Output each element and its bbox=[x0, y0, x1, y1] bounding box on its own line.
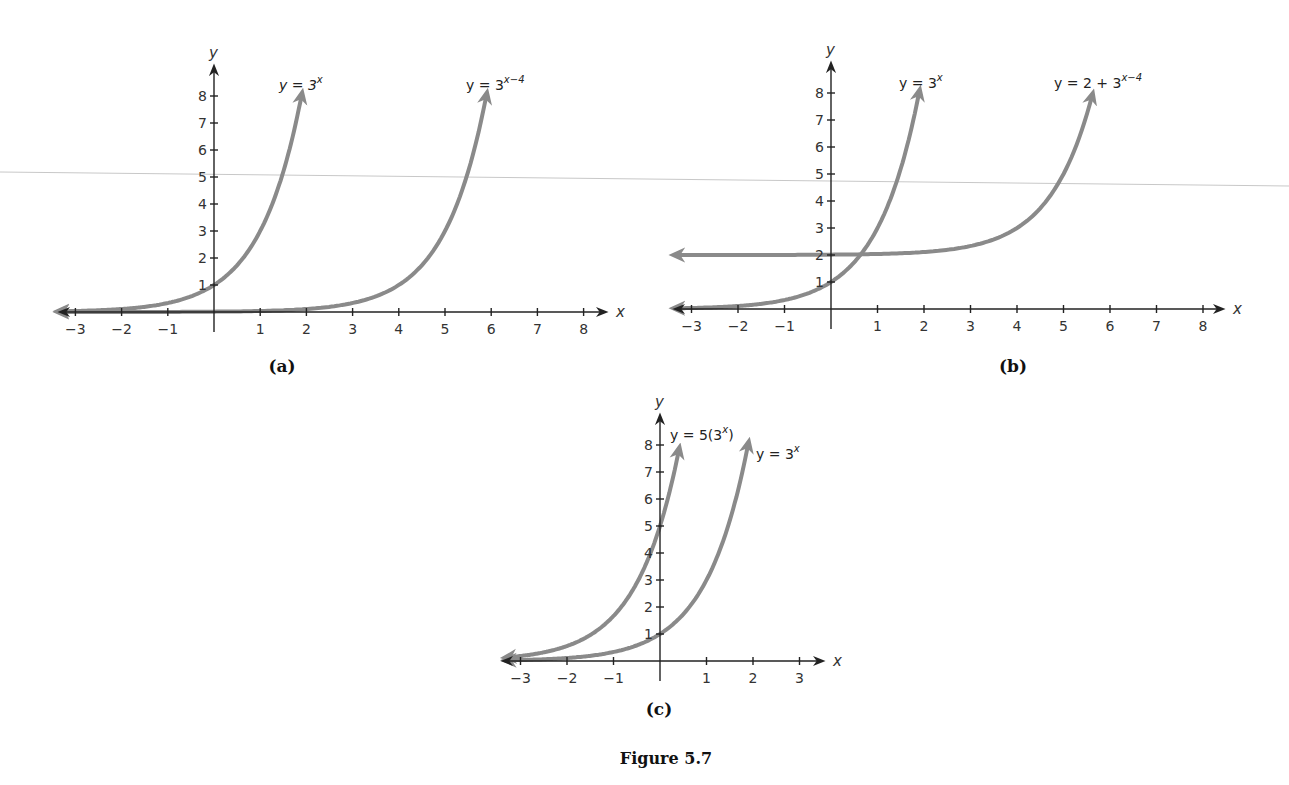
y-tick-label: 5 bbox=[815, 166, 824, 182]
panel-a-eq2-label: y = 3x−4 bbox=[466, 74, 525, 93]
panel-c-label: (c) bbox=[646, 699, 672, 719]
x-tick-label: 5 bbox=[441, 321, 450, 337]
y-tick-label: 7 bbox=[815, 112, 824, 128]
y-tick-label: 6 bbox=[198, 142, 207, 158]
y-tick-label: 8 bbox=[644, 437, 653, 453]
x-tick-label: 8 bbox=[579, 321, 588, 337]
y-tick-label: 2 bbox=[644, 599, 653, 615]
y-tick-label: 8 bbox=[198, 88, 207, 104]
figure-5-7: −3−2−11234567812345678xy −3−2−1123456781… bbox=[0, 0, 1289, 785]
x-tick-label: 3 bbox=[795, 670, 804, 686]
curve-3-x bbox=[59, 94, 302, 311]
x-tick-label: 7 bbox=[533, 321, 542, 337]
y-tick-label: 7 bbox=[644, 464, 653, 480]
y-tick-label: 2 bbox=[198, 250, 207, 266]
y-axis-label: y bbox=[825, 41, 836, 59]
y-tick-label: 6 bbox=[644, 491, 653, 507]
panel-b-label: (b) bbox=[999, 356, 1027, 376]
x-tick-label: 1 bbox=[873, 318, 882, 334]
x-tick-label: 2 bbox=[302, 321, 311, 337]
x-tick-label: 7 bbox=[1152, 318, 1161, 334]
y-tick-label: 4 bbox=[644, 545, 653, 561]
y-tick-label: 2 bbox=[815, 247, 824, 263]
panel-b-chart: −3−2−11234567812345678xy bbox=[675, 41, 1242, 334]
x-tick-label: 5 bbox=[1059, 318, 1068, 334]
x-tick-label: 1 bbox=[256, 321, 265, 337]
y-tick-label: 4 bbox=[815, 193, 824, 209]
x-tick-label: 1 bbox=[702, 670, 711, 686]
y-tick-label: 1 bbox=[198, 277, 207, 293]
y-axis-label: y bbox=[208, 44, 219, 62]
panel-c-eq2-label: y = 3x bbox=[756, 443, 800, 462]
panel-a-chart: −3−2−11234567812345678xy bbox=[59, 44, 625, 337]
x-tick-label: −2 bbox=[111, 321, 132, 337]
x-tick-label: 8 bbox=[1199, 318, 1208, 334]
x-tick-label: −3 bbox=[510, 670, 531, 686]
y-tick-label: 5 bbox=[644, 518, 653, 534]
y-tick-label: 5 bbox=[198, 169, 207, 185]
panel-c-eq1-label: y = 5(3x) bbox=[670, 424, 734, 443]
y-tick-label: 1 bbox=[815, 274, 824, 290]
y-tick-label: 3 bbox=[815, 220, 824, 236]
scan-line-artifact bbox=[0, 172, 1289, 186]
curve-3-x bbox=[507, 443, 749, 660]
x-tick-label: 3 bbox=[348, 321, 357, 337]
x-tick-label: −1 bbox=[603, 670, 624, 686]
x-tick-label: 6 bbox=[487, 321, 496, 337]
panel-a-eq1-label: y = 3x bbox=[278, 74, 323, 93]
y-tick-label: 8 bbox=[815, 85, 824, 101]
y-tick-label: 3 bbox=[198, 223, 207, 239]
x-tick-label: −1 bbox=[157, 321, 178, 337]
y-tick-label: 7 bbox=[198, 115, 207, 131]
curve-5-3-x bbox=[507, 449, 679, 657]
y-tick-label: 4 bbox=[198, 196, 207, 212]
x-tick-label: −3 bbox=[65, 321, 86, 337]
x-tick-label: 2 bbox=[920, 318, 929, 334]
panel-b-eq1-label: y = 3x bbox=[899, 72, 943, 91]
x-tick-label: 3 bbox=[966, 318, 975, 334]
x-tick-label: −1 bbox=[774, 318, 795, 334]
x-tick-label: −3 bbox=[681, 318, 702, 334]
x-tick-label: 4 bbox=[394, 321, 403, 337]
x-tick-label: 4 bbox=[1013, 318, 1022, 334]
curve-3-x bbox=[675, 91, 919, 308]
x-tick-label: 2 bbox=[749, 670, 758, 686]
panel-a-label: (a) bbox=[268, 356, 295, 376]
curve-2-3-x-4- bbox=[675, 95, 1092, 255]
x-tick-label: 6 bbox=[1106, 318, 1115, 334]
figure-caption: Figure 5.7 bbox=[620, 749, 712, 768]
y-tick-label: 6 bbox=[815, 139, 824, 155]
y-axis-label: y bbox=[654, 393, 665, 411]
x-tick-label: −2 bbox=[728, 318, 749, 334]
x-axis-label: x bbox=[832, 652, 842, 670]
panel-b-eq2-label: y = 2 + 3x−4 bbox=[1054, 72, 1142, 91]
x-axis-label: x bbox=[1232, 300, 1242, 318]
y-tick-label: 3 bbox=[644, 572, 653, 588]
x-axis-label: x bbox=[615, 303, 625, 321]
y-tick-label: 1 bbox=[644, 626, 653, 642]
x-tick-label: −2 bbox=[557, 670, 578, 686]
